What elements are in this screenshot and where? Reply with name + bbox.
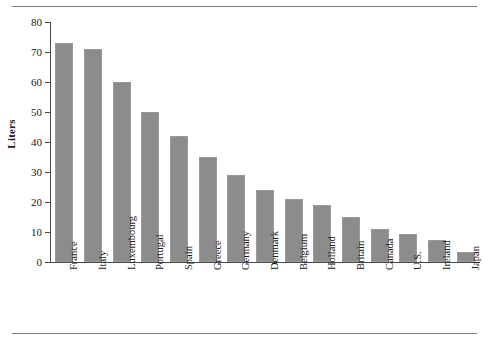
x-axis-category-label: U.S. (412, 251, 423, 270)
x-axis-category-label: Holland (326, 236, 337, 270)
x-axis-category-label: Japan (470, 246, 481, 270)
y-axis-tick-mark (45, 112, 50, 113)
bottom-divider-rule (12, 333, 477, 334)
x-axis-category-label: Italy (97, 251, 108, 270)
y-axis-tick-mark (45, 262, 50, 263)
y-axis-tick-label: 0 (16, 256, 42, 268)
y-axis-tick-mark (45, 172, 50, 173)
figure-bar-chart: Liters 01020304050607080 FranceItalyLuxe… (0, 0, 489, 345)
x-axis-category-label: France (68, 241, 79, 270)
x-axis-category-label: Germany (240, 231, 251, 270)
y-axis-tick-label: 30 (16, 166, 42, 178)
x-axis-category-label: Luxembourg (126, 216, 137, 270)
x-axis-category-label: Denmark (269, 231, 280, 270)
x-axis-category-label: Greece (212, 240, 223, 270)
y-axis-tick-label: 60 (16, 76, 42, 88)
y-axis-tick-mark (45, 202, 50, 203)
y-axis-tick-label: 70 (16, 46, 42, 58)
x-axis-category-label: Portugal (154, 234, 165, 270)
x-axis-category-label: Belgium (298, 234, 309, 270)
x-axis-category-label: Canada (384, 239, 395, 271)
x-axis-category-labels: FranceItalyLuxembourgPortugalSpainGreece… (50, 22, 480, 112)
x-axis-category-label: Ireland (441, 240, 452, 270)
bar (170, 136, 188, 262)
top-divider-rule (12, 6, 477, 7)
y-axis-tick-label: 50 (16, 106, 42, 118)
y-axis-tick-label: 80 (16, 16, 42, 28)
y-axis-tick-mark (45, 232, 50, 233)
y-axis-tick-label: 10 (16, 226, 42, 238)
y-axis-tick-mark (45, 142, 50, 143)
y-axis-tick-label: 20 (16, 196, 42, 208)
y-axis-tick-label: 40 (16, 136, 42, 148)
x-axis-category-label: Britain (355, 241, 366, 270)
plot-area: 01020304050607080 FranceItalyLuxembourgP… (50, 22, 480, 262)
x-axis-category-label: Spain (183, 246, 194, 270)
